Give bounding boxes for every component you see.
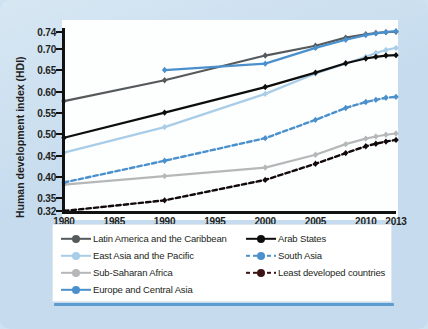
data-point-marker [373, 133, 378, 139]
legend-item-label: Least developed countries [278, 267, 385, 278]
data-point-marker [343, 150, 348, 156]
x-axis-line [62, 211, 396, 214]
legend-item[interactable]: Least developed countries [246, 264, 392, 281]
legend-swatch-icon [246, 267, 276, 278]
series-europe-and-central-asia [162, 28, 399, 73]
y-tick-label: 0.45 [37, 150, 56, 161]
data-point-marker [393, 94, 398, 100]
hdi-trend-figure: Human development index (HDI) 0.320.350.… [0, 0, 428, 329]
legend-swatch-icon [246, 233, 276, 244]
data-point-marker [363, 143, 368, 149]
data-point-marker [363, 32, 368, 38]
legend-item[interactable]: Arab States [246, 230, 392, 247]
y-tick-mark [56, 210, 62, 212]
data-point-marker [162, 124, 167, 130]
data-point-marker [313, 117, 318, 123]
data-point-marker [162, 173, 167, 179]
series-layer [62, 20, 398, 220]
data-point-marker [363, 99, 368, 105]
data-point-marker [343, 105, 348, 111]
data-point-marker [313, 152, 318, 158]
y-tick-mark [56, 112, 62, 114]
y-tick-label: 0.50 [37, 129, 56, 140]
data-point-marker [262, 52, 267, 58]
data-point-marker [313, 161, 318, 167]
legend-item[interactable]: Europe and Central Asia [61, 281, 246, 298]
series-line [64, 55, 396, 138]
data-point-marker [262, 135, 267, 141]
data-point-marker [383, 52, 388, 58]
data-point-marker [383, 95, 388, 101]
data-point-marker [373, 97, 378, 103]
y-tick-label: 0.65 [37, 65, 56, 76]
data-point-marker [262, 60, 267, 66]
data-point-marker [162, 67, 167, 73]
legend-swatch-icon [61, 250, 91, 261]
legend-item[interactable]: Sub-Saharan Africa [61, 264, 246, 281]
y-tick-label: 0.40 [37, 171, 56, 182]
y-tick-label: 0.32 [37, 206, 56, 217]
legend-item-label: South Asia [278, 250, 322, 261]
data-point-marker [162, 77, 167, 83]
data-point-marker [373, 30, 378, 36]
data-point-marker [162, 158, 167, 164]
legend-item[interactable]: South Asia [246, 247, 392, 264]
data-point-marker [393, 28, 398, 34]
y-axis-label-text: Human development index (HDI) [14, 56, 26, 218]
legend-item-label: Sub-Saharan Africa [93, 267, 173, 278]
y-tick-label: 0.70 [37, 44, 56, 55]
series-line [165, 31, 396, 70]
data-point-marker [393, 130, 398, 136]
legend-column-left: Latin America and the CaribbeanEast Asia… [61, 230, 246, 298]
y-tick-mark [56, 155, 62, 157]
legend-item[interactable]: Latin America and the Caribbean [61, 230, 246, 247]
legend-swatch-icon [61, 284, 91, 295]
series-least-developed-countries [61, 137, 398, 215]
data-point-marker [373, 141, 378, 147]
legend-item-label: Europe and Central Asia [93, 284, 193, 295]
data-point-marker [262, 84, 267, 90]
y-tick-label: 0.35 [37, 193, 56, 204]
y-tick-mark [56, 91, 62, 93]
y-tick-label: 0.55 [37, 108, 56, 119]
data-point-marker [343, 141, 348, 147]
plot-area: 0.320.350.400.450.500.550.600.650.700.74… [62, 20, 398, 220]
legend-item-label: Latin America and the Caribbean [93, 233, 227, 244]
legend-swatch-icon [61, 233, 91, 244]
legend-swatch-icon [246, 250, 276, 261]
data-point-marker [383, 132, 388, 138]
y-tick-mark [56, 48, 62, 50]
y-tick-mark [56, 133, 62, 135]
legend-underline-bar [54, 303, 394, 306]
series-east-asia-and-the-pacific [61, 45, 398, 156]
legend-item-label: East Asia and the Pacific [93, 250, 194, 261]
legend-column-right: Arab StatesSouth AsiaLeast developed cou… [246, 230, 392, 281]
data-point-marker [363, 135, 368, 141]
data-point-marker [162, 197, 167, 203]
series-line [64, 133, 396, 184]
series-sub-saharan-africa [61, 130, 398, 188]
y-tick-label: 0.74 [37, 27, 56, 38]
data-point-marker [262, 164, 267, 170]
data-point-marker [162, 109, 167, 115]
chart-legend: Latin America and the CaribbeanEast Asia… [52, 224, 392, 302]
data-point-marker [393, 137, 398, 143]
data-point-marker [393, 45, 398, 51]
y-tick-mark [56, 197, 62, 199]
y-axis-label: Human development index (HDI) [26, 28, 42, 218]
y-axis-line [62, 28, 65, 214]
data-point-marker [383, 29, 388, 35]
data-point-marker [383, 138, 388, 144]
y-tick-mark [56, 69, 62, 71]
data-point-marker [262, 177, 267, 183]
legend-swatch-icon [61, 267, 91, 278]
data-point-marker [343, 60, 348, 66]
y-tick-label: 0.60 [37, 86, 56, 97]
data-point-marker [262, 91, 267, 97]
y-tick-mark [56, 176, 62, 178]
data-point-marker [393, 52, 398, 58]
y-tick-mark [56, 31, 62, 33]
data-point-marker [383, 47, 388, 53]
legend-item-label: Arab States [278, 233, 326, 244]
legend-item[interactable]: East Asia and the Pacific [61, 247, 246, 264]
